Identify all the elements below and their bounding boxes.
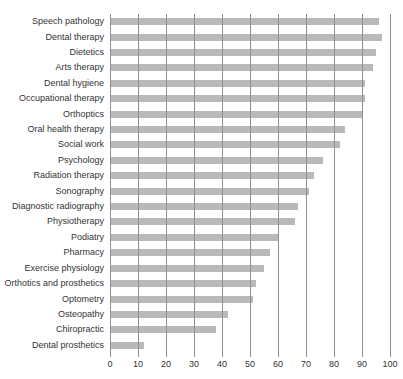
chart-row: Dietetics: [0, 45, 390, 60]
x-axis-tick-label: 100: [382, 360, 397, 369]
bar-track: [110, 168, 390, 183]
bar-track: [110, 106, 390, 121]
bar: [110, 157, 323, 164]
x-axis-tick-label: 20: [161, 360, 171, 369]
category-label: Speech pathology: [0, 17, 110, 26]
chart-row: Podiatry: [0, 230, 390, 245]
x-axis-tick-label: 70: [301, 360, 311, 369]
chart-row: Physiotherapy: [0, 214, 390, 229]
bar: [110, 280, 256, 287]
category-label: Diagnostic radiography: [0, 202, 110, 211]
bar-track: [110, 338, 390, 353]
bar-track: [110, 60, 390, 75]
bar: [110, 342, 144, 349]
x-axis-tick-label: 40: [217, 360, 227, 369]
bar: [110, 18, 379, 25]
bar: [110, 172, 314, 179]
x-axis-tick-label: 50: [245, 360, 255, 369]
chart-row: Exercise physiology: [0, 261, 390, 276]
category-label: Orthotics and prosthetics: [0, 279, 110, 288]
x-axis-tick-label: 0: [107, 360, 112, 369]
x-axis-tick-label: 60: [273, 360, 283, 369]
chart-row: Psychology: [0, 153, 390, 168]
category-label: Osteopathy: [0, 310, 110, 319]
bar-track: [110, 199, 390, 214]
bar: [110, 111, 362, 118]
category-label: Dietetics: [0, 48, 110, 57]
bar-track: [110, 291, 390, 306]
bar-track: [110, 153, 390, 168]
x-axis-tick-label: 30: [189, 360, 199, 369]
bar-track: [110, 45, 390, 60]
chart-row: Dental therapy: [0, 29, 390, 44]
bar-track: [110, 29, 390, 44]
chart-row: Osteopathy: [0, 307, 390, 322]
bar: [110, 80, 365, 87]
bar: [110, 203, 298, 210]
category-label: Oral health therapy: [0, 125, 110, 134]
bar-track: [110, 91, 390, 106]
bar: [110, 141, 340, 148]
category-label: Radiation therapy: [0, 171, 110, 180]
chart-row: Chiropractic: [0, 322, 390, 337]
bar-track: [110, 122, 390, 137]
cropped-caption: Figure: percentage of women in selected …: [2, 0, 401, 6]
bar-track: [110, 276, 390, 291]
category-label: Dental prosthetics: [0, 341, 110, 350]
category-label: Dental therapy: [0, 33, 110, 42]
category-label: Podiatry: [0, 233, 110, 242]
chart-row: Orthotics and prosthetics: [0, 276, 390, 291]
bar: [110, 64, 373, 71]
chart-row: Optometry: [0, 291, 390, 306]
chart-row: Radiation therapy: [0, 168, 390, 183]
x-axis-tick-labels: 0102030405060708090100: [110, 360, 390, 372]
chart-row: Occupational therapy: [0, 91, 390, 106]
category-label: Exercise physiology: [0, 264, 110, 273]
chart-row: Pharmacy: [0, 245, 390, 260]
category-label: Occupational therapy: [0, 94, 110, 103]
x-axis-tick-label: 90: [357, 360, 367, 369]
chart-row: Social work: [0, 137, 390, 152]
bar-track: [110, 14, 390, 29]
chart-row: Oral health therapy: [0, 122, 390, 137]
bar: [110, 249, 270, 256]
chart-row: Dental prosthetics: [0, 338, 390, 353]
category-label: Pharmacy: [0, 248, 110, 257]
chart-row: Speech pathology: [0, 14, 390, 29]
chart-row: Arts therapy: [0, 60, 390, 75]
category-label: Orthoptics: [0, 110, 110, 119]
x-axis-tick-label: 80: [329, 360, 339, 369]
category-label: Dental hygiene: [0, 79, 110, 88]
bar-track: [110, 261, 390, 276]
category-label: Arts therapy: [0, 63, 110, 72]
bar: [110, 326, 216, 333]
bar-track: [110, 183, 390, 198]
bar-track: [110, 76, 390, 91]
bar: [110, 188, 309, 195]
chart-row: Diagnostic radiography: [0, 199, 390, 214]
bar-track: [110, 307, 390, 322]
category-label: Psychology: [0, 156, 110, 165]
category-label: Sonography: [0, 187, 110, 196]
bar: [110, 311, 228, 318]
bar: [110, 49, 376, 56]
bar-track: [110, 137, 390, 152]
bar-track: [110, 322, 390, 337]
bar-track: [110, 230, 390, 245]
bar: [110, 296, 253, 303]
x-axis-tick-label: 10: [133, 360, 143, 369]
bar: [110, 265, 264, 272]
cropped-caption-text: Figure: percentage of women in selected …: [2, 4, 302, 6]
category-label: Optometry: [0, 295, 110, 304]
bar-track: [110, 214, 390, 229]
chart-row: Dental hygiene: [0, 76, 390, 91]
bar-track: [110, 245, 390, 260]
bar: [110, 234, 278, 241]
bar: [110, 218, 295, 225]
bar-chart-screenshot: Figure: percentage of women in selected …: [0, 0, 403, 379]
category-label: Chiropractic: [0, 325, 110, 334]
chart-row: Orthoptics: [0, 106, 390, 121]
chart-row: Sonography: [0, 183, 390, 198]
bar: [110, 126, 345, 133]
chart-rows: Speech pathologyDental therapyDieteticsA…: [0, 14, 390, 353]
